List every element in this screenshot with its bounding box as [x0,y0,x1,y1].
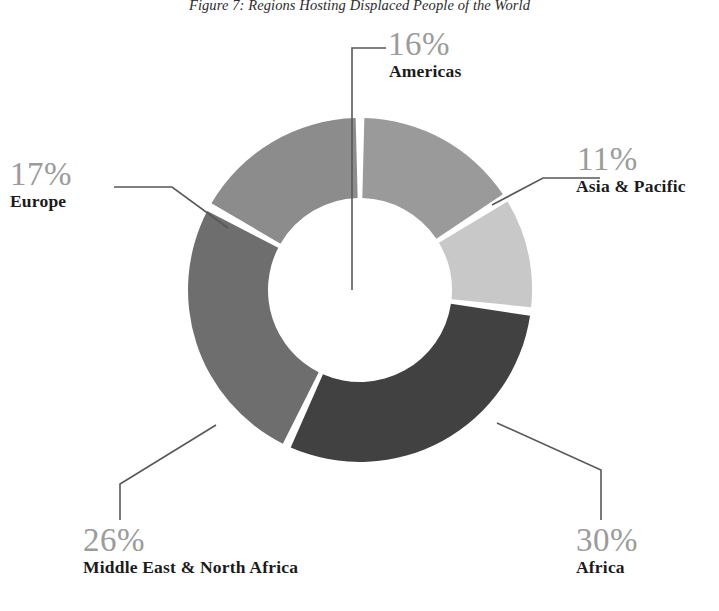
callout-africa: 30% Africa [576,524,638,577]
leader-line-mena [120,425,216,520]
donut-slice-africa[interactable] [291,304,530,462]
callout-americas: 16% Americas [388,28,462,81]
callout-asia-pacific-label: Asia & Pacific [576,178,686,196]
callout-europe-percent: 17% [10,158,72,192]
callout-americas-percent: 16% [388,28,462,62]
callout-europe: 17% Europe [10,158,72,211]
callout-africa-label: Africa [576,559,638,577]
callout-asia-pacific: 11% Asia & Pacific [577,143,686,196]
callout-americas-label: Americas [389,63,462,81]
donut-chart-svg [0,0,719,611]
leader-line-africa [497,423,601,520]
callout-asia-pacific-percent: 11% [577,143,686,177]
callout-mena-label: Middle East & North Africa [83,559,298,577]
callout-africa-percent: 30% [576,524,638,558]
callout-europe-label: Europe [10,193,72,211]
donut-slice-middle-east-north-africa[interactable] [188,211,319,444]
donut-slice-group [188,118,532,462]
callout-mena: 26% Middle East & North Africa [83,524,298,577]
callout-mena-percent: 26% [83,524,298,558]
donut-chart [0,0,719,611]
